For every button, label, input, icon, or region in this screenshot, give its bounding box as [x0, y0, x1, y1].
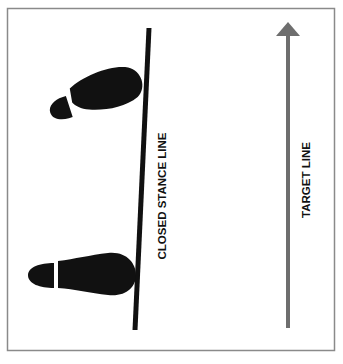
target-line-shaft	[286, 34, 290, 328]
closed-stance-diagram: CLOSED STANCE LINE TARGET LINE	[0, 0, 343, 364]
diagram-frame	[8, 9, 335, 351]
target-line-label: TARGET LINE	[300, 142, 312, 218]
closed-stance-line-label: CLOSED STANCE LINE	[156, 132, 168, 259]
